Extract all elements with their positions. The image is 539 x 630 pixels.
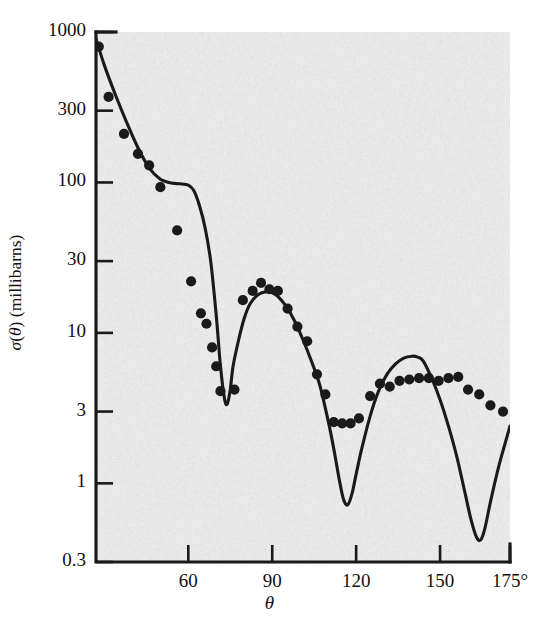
y-axis-tick-label: 10 <box>67 320 86 342</box>
data-point <box>211 361 221 371</box>
x-axis-tick-label: 90 <box>232 570 312 592</box>
x-axis-label: θ <box>0 592 539 614</box>
data-point <box>283 304 293 314</box>
plot-canvas <box>0 0 539 630</box>
plot-background <box>96 32 510 562</box>
data-point <box>443 373 453 383</box>
y-axis-tick-label: 0.3 <box>62 549 86 571</box>
data-point <box>133 149 143 159</box>
data-point <box>354 413 364 423</box>
data-point <box>264 284 274 294</box>
data-point <box>434 376 444 386</box>
data-point <box>498 406 508 416</box>
data-point <box>273 286 283 296</box>
data-point <box>292 322 302 332</box>
data-point <box>144 160 154 170</box>
data-point <box>201 319 211 329</box>
x-axis-tick-label: 60 <box>148 570 228 592</box>
y-axis-tick-label: 300 <box>58 98 87 120</box>
data-point <box>463 384 473 394</box>
y-axis-label-container: σ(θ) (millibarns) <box>0 0 34 630</box>
y-axis-tick-label: 100 <box>58 169 87 191</box>
x-axis-tick-label: 175° <box>470 570 539 592</box>
data-point <box>474 389 484 399</box>
data-point <box>238 295 248 305</box>
x-axis-tick-label: 120 <box>316 570 396 592</box>
data-point <box>155 182 165 192</box>
data-point <box>453 372 463 382</box>
data-point <box>119 129 129 139</box>
y-axis-label: σ(θ) (millibarns) <box>5 123 26 463</box>
data-point <box>302 336 312 346</box>
data-point <box>414 373 424 383</box>
data-point <box>424 373 434 383</box>
x-axis-tick-label: 150 <box>400 570 480 592</box>
data-point <box>256 278 266 288</box>
data-point <box>312 369 322 379</box>
data-point <box>196 308 206 318</box>
y-axis-tick-label: 3 <box>77 399 87 421</box>
y-axis-tick-label: 1 <box>77 470 87 492</box>
data-point <box>207 342 217 352</box>
data-point <box>320 389 330 399</box>
data-point <box>375 379 385 389</box>
data-point <box>485 400 495 410</box>
y-axis-tick-label: 1000 <box>48 19 86 41</box>
data-point <box>385 381 395 391</box>
data-point <box>103 92 113 102</box>
data-point <box>394 376 404 386</box>
data-point <box>365 391 375 401</box>
figure-differential-cross-section: σ(θ) (millibarns) θ <box>0 0 539 630</box>
data-point <box>229 384 239 394</box>
data-point <box>186 276 196 286</box>
data-point <box>248 286 258 296</box>
data-point <box>215 386 225 396</box>
data-point <box>172 225 182 235</box>
y-axis-tick-label: 30 <box>67 248 86 270</box>
data-point <box>404 374 414 384</box>
